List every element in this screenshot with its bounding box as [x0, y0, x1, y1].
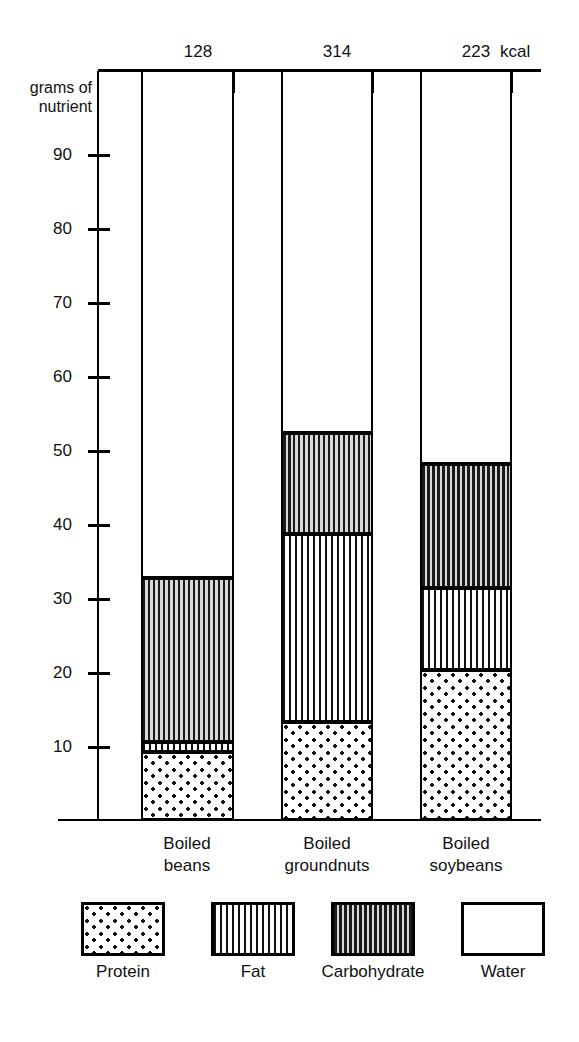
y-tick-label-40: 40: [26, 516, 72, 533]
x-label-boiled-beans: Boiled beans: [107, 833, 267, 877]
y-tick-mark-50: [88, 450, 110, 453]
segment-carbohydrate-boiled-groundnuts: [281, 433, 373, 534]
y-axis-caption: grams of nutrient: [4, 78, 92, 116]
y-axis-caption-line2: nutrient: [4, 97, 92, 116]
legend-swatch-fat-icon: [211, 902, 295, 956]
y-tick-label-60: 60: [26, 368, 72, 385]
kcal-value-boiled-groundnuts: 314: [307, 42, 367, 62]
legend-swatch-water-icon: [461, 902, 545, 956]
y-tick-mark-30: [88, 598, 110, 601]
segment-carbohydrate-boiled-beans: [141, 578, 234, 742]
x-label-boiled-groundnuts-line1: Boiled: [247, 833, 407, 855]
y-tick-mark-10: [88, 746, 110, 749]
legend-item-carbohydrate: Carbohydrate: [331, 902, 437, 982]
y-axis-line: [97, 71, 99, 820]
x-label-boiled-groundnuts-line2: groundnuts: [247, 855, 407, 877]
y-tick-mark-40: [88, 524, 110, 527]
y-tick-label-90: 90: [26, 146, 72, 163]
legend-swatch-carbohydrate-icon: [331, 902, 415, 956]
y-tick-mark-20: [88, 672, 110, 675]
y-axis-caption-line1: grams of: [4, 78, 92, 97]
legend-swatch-protein-icon: [81, 902, 165, 956]
bar-boiled-beans: [141, 70, 234, 820]
legend-label-fat: Fat: [211, 962, 295, 982]
segment-fat-boiled-groundnuts: [281, 534, 373, 722]
kcal-value-boiled-soybeans: 223: [446, 42, 506, 62]
kcal-unit-label: kcal: [500, 42, 530, 62]
y-tick-label-10: 10: [26, 738, 72, 755]
segment-fat-boiled-beans: [141, 742, 234, 752]
x-label-boiled-beans-line2: beans: [107, 855, 267, 877]
y-tick-label-80: 80: [26, 220, 72, 237]
y-tick-mark-90: [88, 154, 110, 157]
y-tick-mark-80: [88, 228, 110, 231]
legend-label-water: Water: [461, 962, 545, 982]
bar-boiled-groundnuts: [281, 70, 373, 820]
legend-item-fat: Fat: [211, 902, 295, 982]
x-label-boiled-beans-line1: Boiled: [107, 833, 267, 855]
legend-item-protein: Protein: [81, 902, 165, 982]
segment-water-boiled-beans: [141, 70, 234, 578]
segment-water-boiled-groundnuts: [281, 70, 373, 433]
x-label-boiled-soybeans-line2: soybeans: [386, 855, 546, 877]
x-label-boiled-soybeans-line1: Boiled: [386, 833, 546, 855]
y-tick-label-70: 70: [26, 294, 72, 311]
segment-protein-boiled-beans: [141, 752, 234, 820]
y-tick-label-20: 20: [26, 664, 72, 681]
kcal-value-boiled-beans: 128: [168, 42, 228, 62]
x-label-boiled-soybeans: Boiled soybeans: [386, 833, 546, 877]
y-tick-label-30: 30: [26, 590, 72, 607]
y-tick-mark-60: [88, 376, 110, 379]
segment-water-boiled-soybeans: [420, 70, 512, 464]
y-tick-label-50: 50: [26, 442, 72, 459]
y-tick-mark-70: [88, 302, 110, 305]
legend-item-water: Water: [461, 902, 545, 982]
segment-protein-boiled-soybeans: [420, 670, 512, 820]
legend-label-protein: Protein: [81, 962, 165, 982]
segment-protein-boiled-groundnuts: [281, 722, 373, 820]
segment-fat-boiled-soybeans: [420, 588, 512, 670]
x-label-boiled-groundnuts: Boiled groundnuts: [247, 833, 407, 877]
segment-carbohydrate-boiled-soybeans: [420, 464, 512, 588]
legend-label-carbohydrate: Carbohydrate: [309, 962, 437, 982]
bar-boiled-soybeans: [420, 70, 512, 820]
nutrient-composition-chart: 128 314 223 kcal grams of nutrient 90 80…: [0, 0, 579, 1042]
